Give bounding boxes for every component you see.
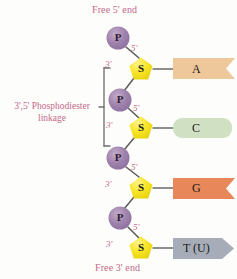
sugar-pentagon-2: [129, 117, 152, 139]
prime-label-3-2: 3': [106, 120, 112, 130]
sugar-pentagon-1: [129, 58, 152, 80]
prime-label-5-3: 5': [131, 162, 137, 172]
prime-label-3-3: 3': [105, 179, 111, 189]
prime-label-5-4: 5': [133, 222, 139, 232]
prime-label-5-1: 5': [131, 43, 137, 53]
free-5-prime-end-label: Free 5' end: [92, 4, 137, 15]
diagram-canvas: [0, 0, 237, 279]
base-label-cytosine: C: [192, 121, 200, 136]
base-shape-cytosine: [173, 118, 232, 138]
bond-s2-p3: [124, 138, 134, 150]
sugar-pentagon-4: [129, 237, 152, 259]
linkage-label-line2: linkage: [38, 113, 66, 123]
base-shape-guanine: [173, 178, 235, 199]
prime-label-3-1: 3': [105, 59, 111, 69]
prime-label-3-4: 3': [106, 239, 112, 249]
phosphate-circle-2: [109, 89, 132, 112]
prime-label-5-2: 5': [133, 103, 139, 113]
phosphodiester-linkage-label: 3',5' Phosphodiester linkage: [2, 100, 102, 124]
bond-s3-p4: [124, 197, 134, 209]
base-shape-adenine: [173, 58, 235, 79]
free-3-prime-end-label: Free 3' end: [95, 262, 140, 273]
sugar-pentagon-3: [129, 177, 152, 199]
base-label-adenine: A: [192, 62, 201, 77]
phosphate-circle-3: [107, 147, 130, 170]
base-label-thymine-uracil: T (U): [183, 241, 210, 256]
sugar-base-bonds: [153, 69, 173, 248]
linkage-label-line1: 3',5' Phosphodiester: [14, 101, 90, 111]
base-label-guanine: G: [192, 181, 201, 196]
nucleic-acid-backbone-diagram: Free 5' end Free 3' end 3',5' Phosphodie…: [0, 0, 237, 279]
phosphate-circle-4: [109, 207, 132, 230]
phosphate-circle-1: [107, 27, 130, 50]
bond-s1-p2: [124, 78, 134, 91]
